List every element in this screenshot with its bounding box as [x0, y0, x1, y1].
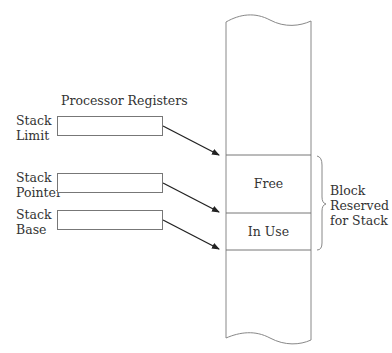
registers-title: Processor Registers — [61, 93, 188, 108]
register-box-stack-pointer — [57, 173, 163, 193]
arrow-stack-limit — [163, 126, 219, 155]
register-label-stack-base: Stack Base — [16, 207, 52, 237]
in-use-region-label: In Use — [226, 224, 311, 239]
free-region-label: Free — [226, 176, 311, 191]
register-label-stack-pointer: Stack Pointer — [16, 170, 62, 200]
register-box-stack-limit — [57, 116, 163, 136]
arrow-stack-base — [163, 220, 219, 249]
register-label-stack-limit: Stack Limit — [16, 113, 52, 143]
brace-icon — [317, 156, 326, 250]
arrow-stack-pointer — [163, 183, 219, 212]
register-box-stack-base — [57, 210, 163, 230]
reserved-block-label: Block Reserved for Stack — [330, 183, 389, 228]
